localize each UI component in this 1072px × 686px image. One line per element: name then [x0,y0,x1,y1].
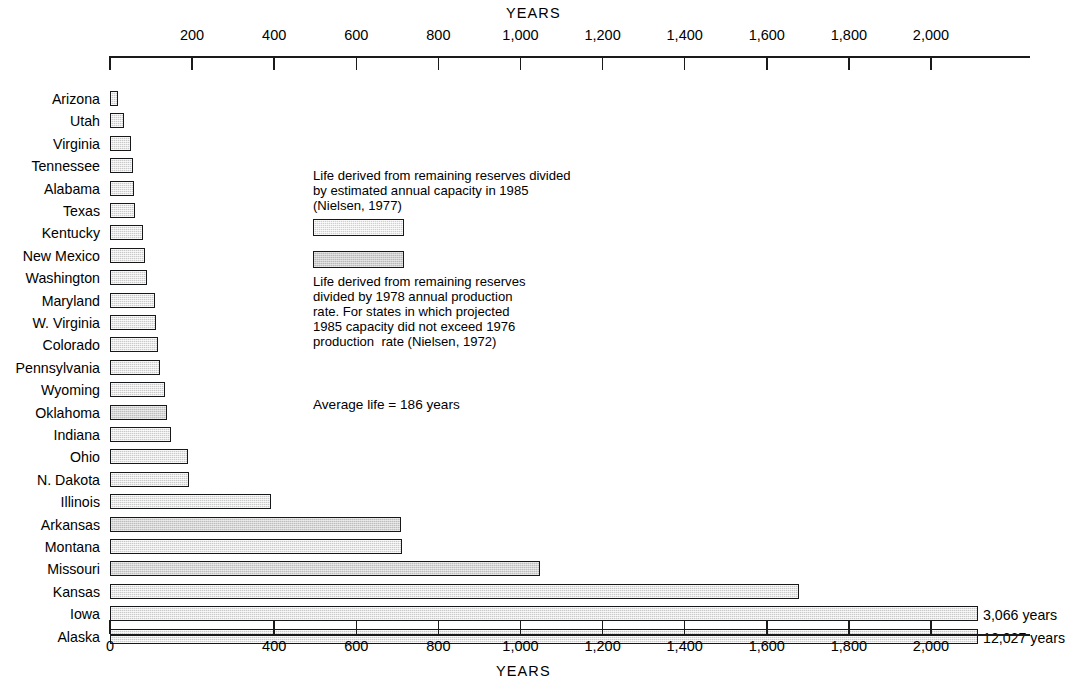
category-label-kentucky: Kentucky [0,226,100,240]
legend-swatch-capacity [313,219,404,236]
axis-tick [191,56,193,70]
axis-tick-label: 1,800 [831,638,867,654]
bar-n-dakota [110,472,189,487]
axis-tick-label: 1,000 [502,638,538,654]
axis-tick [109,620,111,634]
axis-tick-label: 1,600 [749,27,785,43]
axis-tick-label: 1,000 [502,27,538,43]
bar-arizona [110,91,118,106]
bar-new-mexico [110,248,145,263]
axis-tick-label: 600 [344,27,368,43]
axis-tick [684,620,686,634]
category-label-new-mexico: New Mexico [0,249,100,263]
category-label-arizona: Arizona [0,92,100,106]
axis-tick-label: 2,000 [913,638,949,654]
category-label-virginia: Virginia [0,137,100,151]
axis-tick [766,56,768,70]
axis-tick [602,56,604,70]
axis-tick-label: 1,600 [749,638,785,654]
category-label-pennsylvania: Pennsylvania [0,361,100,375]
bar-value-label-alaska: 12,027 years [983,631,1065,645]
axis-tick-label: 200 [180,27,204,43]
bar-colorado [110,337,158,352]
bar-oklahoma [110,405,167,420]
category-label-washington: Washington [0,271,100,285]
axis-tick [766,620,768,634]
axis-tick [438,56,440,70]
category-label-oklahoma: Oklahoma [0,406,100,420]
bar-kansas [110,584,799,599]
axis-tick [520,620,522,634]
bar-illinois [110,494,271,509]
category-label-alaska: Alaska [0,630,100,644]
category-label-wyoming: Wyoming [0,383,100,397]
axis-tick [356,56,358,70]
category-label-montana: Montana [0,540,100,554]
category-label-ohio: Ohio [0,450,100,464]
bar-wyoming [110,382,165,397]
bar-w-virginia [110,315,156,330]
legend-swatch-production [313,251,404,268]
axis-tick-label: 2,000 [913,27,949,43]
axis-tick-label: 0 [106,638,114,654]
axis-tick-label: 400 [262,27,286,43]
axis-tick-label: 600 [344,638,368,654]
category-label-tennessee: Tennessee [0,159,100,173]
category-label-indiana: Indiana [0,428,100,442]
axis-tick-label: 1,800 [831,27,867,43]
category-label-kansas: Kansas [0,585,100,599]
bar-montana [110,539,402,554]
category-label-w-virginia: W. Virginia [0,316,100,330]
axis-tick [930,56,932,70]
axis-tick [602,620,604,634]
average-life-note: Average life = 186 years [313,397,460,412]
category-label-n-dakota: N. Dakota [0,473,100,487]
category-label-maryland: Maryland [0,294,100,308]
category-label-texas: Texas [0,204,100,218]
legend-capacity-note: Life derived from remaining reserves div… [313,168,571,213]
bar-chart: YEARS 2004006008001,0001,2001,4001,6001,… [0,0,1072,686]
axis-tick-label: 1,400 [667,638,703,654]
axis-tick [848,56,850,70]
category-label-illinois: Illinois [0,495,100,509]
axis-tick-label: 400 [262,638,286,654]
axis-tick [520,56,522,70]
bar-virginia [110,136,131,151]
category-label-iowa: Iowa [0,607,100,621]
axis-tick-label: 1,200 [584,638,620,654]
axis-tick [684,56,686,70]
bar-pennsylvania [110,360,160,375]
bar-texas [110,203,135,218]
axis-tick [930,620,932,634]
bottom-axis-title: YEARS [496,663,551,679]
bar-utah [110,113,124,128]
bar-ohio [110,449,188,464]
bar-missouri [110,561,540,576]
category-label-arkansas: Arkansas [0,518,100,532]
axis-tick [273,620,275,634]
axis-tick [848,620,850,634]
bar-kentucky [110,225,143,240]
top-axis-title: YEARS [506,5,561,21]
bar-tennessee [110,158,133,173]
bar-maryland [110,293,155,308]
category-label-colorado: Colorado [0,338,100,352]
bar-iowa [110,606,978,621]
axis-tick [438,620,440,634]
axis-tick-label: 800 [426,638,450,654]
bar-value-label-iowa: 3,066 years [983,608,1057,622]
bar-arkansas [110,517,401,532]
axis-tick [273,56,275,70]
axis-tick [356,620,358,634]
category-label-missouri: Missouri [0,562,100,576]
axis-tick-label: 1,400 [667,27,703,43]
axis-tick-label: 1,200 [584,27,620,43]
legend-production-note: Life derived from remaining reserves div… [313,274,526,349]
axis-origin-cap [109,56,111,70]
bar-alabama [110,181,134,196]
bar-washington [110,270,147,285]
axis-tick-label: 800 [426,27,450,43]
category-label-utah: Utah [0,114,100,128]
category-label-alabama: Alabama [0,182,100,196]
bar-indiana [110,427,171,442]
